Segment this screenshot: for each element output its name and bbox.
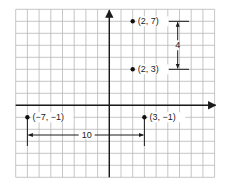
point-marker <box>25 115 29 119</box>
point-label: (−7, −1) <box>32 112 64 122</box>
point-label: (2, 3) <box>138 64 159 74</box>
distance-brackets: 410 <box>27 21 189 146</box>
point-marker <box>131 19 135 23</box>
coordinate-plane: 410 (2, 7)(2, 3)(−7, −1)(3, −1) <box>0 0 225 189</box>
vertical-distance-label: 4 <box>175 40 180 50</box>
horizontal-distance-label: 10 <box>82 130 92 140</box>
point-marker <box>142 115 146 119</box>
axes <box>16 10 216 177</box>
point-marker <box>131 67 135 71</box>
point-label: (3, −1) <box>149 112 175 122</box>
grid-lines <box>16 9 215 177</box>
point-label: (2, 7) <box>138 16 159 26</box>
